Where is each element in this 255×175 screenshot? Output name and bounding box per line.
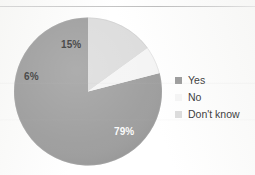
pie-svg: [14, 15, 162, 168]
pie-chart-figure: 15% 6% 79% Yes No Don't know: [0, 0, 255, 175]
pie-graphic: 15% 6% 79%: [14, 15, 162, 168]
legend-swatch-icon-yes: [175, 77, 182, 84]
legend-label-no: No: [188, 89, 201, 105]
slice-label-yes: 79%: [114, 126, 134, 137]
chart-legend: Yes No Don't know: [175, 72, 253, 123]
legend-swatch-icon-dont-know: [175, 111, 182, 118]
legend-item-dont-know[interactable]: Don't know: [175, 106, 253, 122]
slice-label-dont-know: 15%: [61, 39, 81, 50]
top-divider-rule: [0, 6, 255, 7]
legend-label-yes: Yes: [188, 72, 205, 88]
pie-shading-overlay: [14, 18, 162, 166]
slice-label-no: 6%: [24, 71, 39, 82]
legend-label-dont-know: Don't know: [188, 106, 240, 122]
legend-item-yes[interactable]: Yes: [175, 72, 253, 88]
chart-area: 15% 6% 79% Yes No Don't know: [0, 8, 255, 175]
legend-item-no[interactable]: No: [175, 89, 253, 105]
legend-swatch-icon-no: [175, 94, 182, 101]
